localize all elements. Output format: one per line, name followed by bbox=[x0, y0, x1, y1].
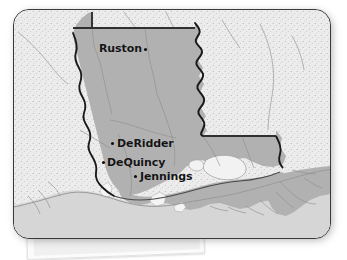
city-label-jennings: Jennings bbox=[140, 171, 192, 182]
city-label-ruston: Ruston bbox=[99, 43, 142, 54]
louisiana-map-card[interactable]: Ruston DeRidder DeQuincy Jennings bbox=[13, 9, 331, 239]
louisiana-map-graphic bbox=[14, 10, 330, 238]
city-label-dequincy: DeQuincy bbox=[107, 157, 165, 168]
screenshot-stage: Ruston DeRidder DeQuincy Jennings bbox=[0, 0, 347, 260]
city-label-deridder: DeRidder bbox=[117, 138, 174, 149]
